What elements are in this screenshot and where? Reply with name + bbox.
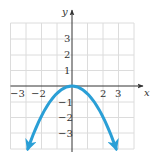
- x-tick-neg2: −2: [31, 88, 46, 99]
- x-tick-neg3: −3: [10, 88, 25, 99]
- x-tick-3: 3: [115, 88, 121, 99]
- y-tick-neg1: −1: [58, 97, 73, 108]
- x-axis-label: x: [144, 87, 150, 98]
- y-axis-label: y: [61, 6, 68, 17]
- y-tick-neg3: −3: [58, 128, 73, 139]
- y-tick-3: 3: [64, 33, 70, 44]
- y-tick-1: 1: [64, 65, 70, 76]
- parabola-chart: x y −3 −2 2 3 3 2 1 −1 −2 −3: [0, 0, 154, 159]
- y-tick-2: 2: [64, 49, 70, 60]
- y-tick-neg2: −2: [58, 112, 73, 123]
- x-tick-2: 2: [100, 88, 106, 99]
